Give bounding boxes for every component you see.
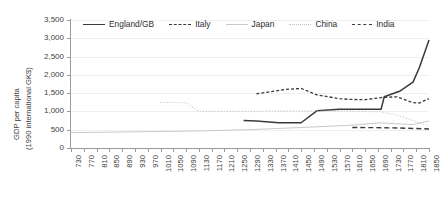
- x-axis-tickmark: [365, 148, 366, 152]
- y-axis-tick-label: 2,500: [34, 53, 64, 61]
- x-axis-tick-label: 1330: [266, 155, 275, 195]
- x-axis-tick-label: 1770: [406, 155, 415, 195]
- x-axis-tickmark: [403, 148, 404, 152]
- x-axis-tickmark: [263, 148, 264, 152]
- x-axis-tickmark: [84, 148, 85, 152]
- x-axis-tick-label: 1290: [253, 155, 262, 195]
- x-axis-tick-label: 730: [74, 155, 83, 195]
- x-axis-tickmark: [212, 148, 213, 152]
- y-axis-tick-label: 1,000: [34, 107, 64, 115]
- x-axis-tick-label: 1050: [176, 155, 185, 195]
- x-axis-tick-label: 1810: [419, 155, 428, 195]
- x-axis-tick-label: 1370: [279, 155, 288, 195]
- plot-area: [71, 20, 429, 148]
- x-axis-tickmark: [148, 148, 149, 152]
- x-axis-tickmark: [391, 148, 392, 152]
- series-line-india: [352, 128, 429, 129]
- x-axis-tick-label: 1410: [291, 155, 300, 195]
- y-axis-tick-label: 500: [34, 126, 64, 134]
- x-axis-tick-label: 1530: [330, 155, 339, 195]
- x-axis-tickmark: [416, 148, 417, 152]
- x-axis-tickmark: [97, 148, 98, 152]
- x-axis-tick-label: 1170: [215, 155, 224, 195]
- x-axis-tick-label: 890: [125, 155, 134, 195]
- x-axis-tick-label: 1850: [432, 155, 441, 195]
- x-axis-tickmark: [429, 148, 430, 152]
- x-axis-tickmark: [186, 148, 187, 152]
- x-axis-tick-label: 1650: [368, 155, 377, 195]
- x-axis-tickmark: [288, 148, 289, 152]
- y-axis-tick-label: 1,500: [34, 89, 64, 97]
- series-line-japan: [71, 121, 429, 133]
- x-axis-tick-label: 1610: [355, 155, 364, 195]
- x-axis-tick-label: 1210: [227, 155, 236, 195]
- x-axis-tickmark: [340, 148, 341, 152]
- x-axis-tickmark: [71, 148, 72, 152]
- x-axis-tickmark: [161, 148, 162, 152]
- x-axis-tickmark: [301, 148, 302, 152]
- x-axis-tickmark: [378, 148, 379, 152]
- x-axis-tickmark: [122, 148, 123, 152]
- x-axis-tickmark: [237, 148, 238, 152]
- y-axis-title-line1: GDP per capita: [12, 88, 21, 140]
- x-axis-tickmark: [173, 148, 174, 152]
- x-axis-tick-label: 1490: [317, 155, 326, 195]
- x-axis-tickmark: [327, 148, 328, 152]
- x-axis-tick-label: 1090: [189, 155, 198, 195]
- x-axis-tick-label: 1730: [394, 155, 403, 195]
- y-axis-tick-label: 3,500: [34, 16, 64, 24]
- y-axis-tick-label: 0: [34, 144, 64, 152]
- x-axis-tickmark: [250, 148, 251, 152]
- x-axis-tickmark: [276, 148, 277, 152]
- series-line-england-gb: [244, 40, 429, 123]
- x-axis-tick-label: 770: [87, 155, 96, 195]
- x-axis-tick-label: 970: [151, 155, 160, 195]
- x-axis-tick-label: 1570: [343, 155, 352, 195]
- x-axis-tickmark: [199, 148, 200, 152]
- x-axis-tickmark: [109, 148, 110, 152]
- y-axis-title: GDP per capita (1990 international GK$): [0, 0, 40, 160]
- x-axis-tick-label: 1450: [304, 155, 313, 195]
- y-axis-title-line2: (1990 international GK$): [24, 67, 33, 150]
- x-axis-tickmark: [135, 148, 136, 152]
- x-axis-tick-label: 1130: [202, 155, 211, 195]
- x-axis-tick-label: 930: [138, 155, 147, 195]
- x-axis-tick-label: 850: [112, 155, 121, 195]
- x-axis-tickmark: [352, 148, 353, 152]
- x-axis-tick-label: 1010: [164, 155, 173, 195]
- x-axis-tickmark: [224, 148, 225, 152]
- series-lines: [71, 20, 429, 148]
- y-axis-tick-label: 3,000: [34, 34, 64, 42]
- y-axis-tick-label: 2,000: [34, 71, 64, 79]
- x-axis-tick-label: 810: [100, 155, 109, 195]
- x-axis-tick-label: 1250: [240, 155, 249, 195]
- series-line-italy: [256, 88, 429, 103]
- x-axis-tick-label: 1690: [381, 155, 390, 195]
- x-axis-tickmark: [314, 148, 315, 152]
